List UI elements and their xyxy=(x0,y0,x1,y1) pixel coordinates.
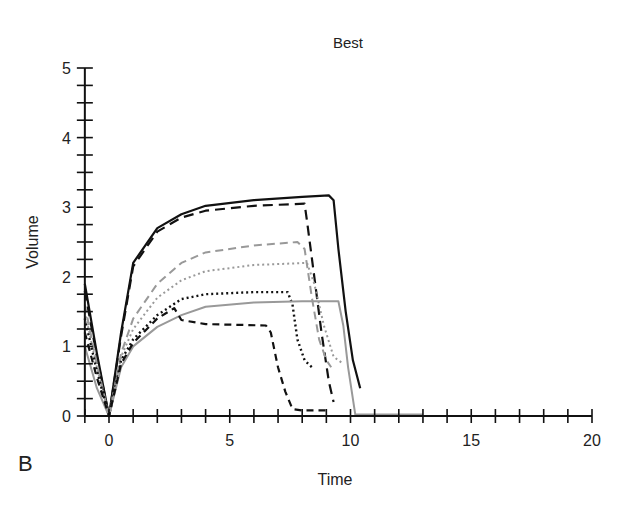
x-tick-label: 20 xyxy=(583,432,601,449)
series-gray-solid xyxy=(85,301,423,416)
x-axis-label: Time xyxy=(318,471,353,488)
y-tick-label: 2 xyxy=(62,269,71,286)
line-chart: Best 05101520012345 Time Volume xyxy=(0,0,626,508)
x-tick-label: 10 xyxy=(342,432,360,449)
panel-label: B xyxy=(18,451,33,477)
x-tick-label: 5 xyxy=(225,432,234,449)
y-tick-label: 5 xyxy=(62,60,71,77)
y-tick-label: 0 xyxy=(62,408,71,425)
y-tick-label: 3 xyxy=(62,199,71,216)
series-black-long-dash xyxy=(85,204,334,416)
chart-title: Best xyxy=(333,34,364,51)
series-curves xyxy=(85,195,423,416)
x-tick-label: 0 xyxy=(105,432,114,449)
series-gray-dotted xyxy=(85,263,344,416)
y-tick-label: 4 xyxy=(62,130,71,147)
y-tick-label: 1 xyxy=(62,338,71,355)
x-tick-label: 15 xyxy=(462,432,480,449)
y-axis-label: Volume xyxy=(24,215,41,268)
